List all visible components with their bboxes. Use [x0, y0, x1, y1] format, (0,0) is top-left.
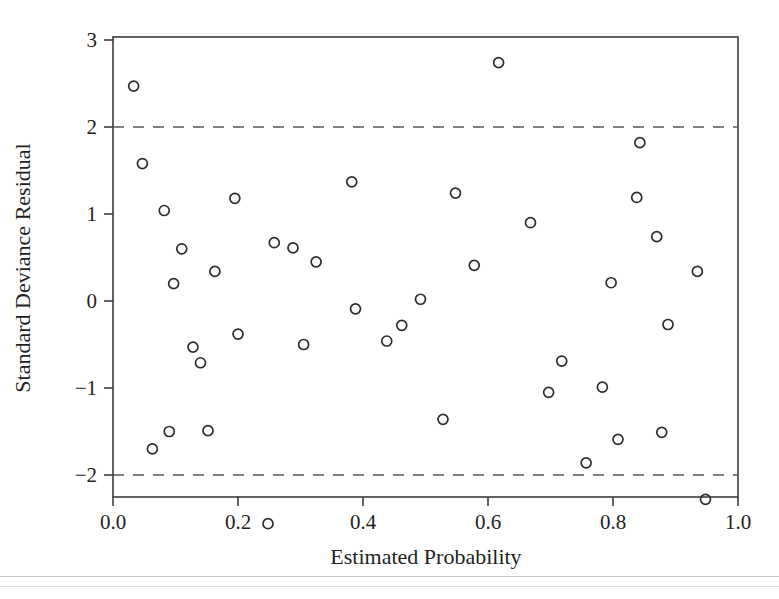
x-tick-label-0: 0.0 — [100, 510, 126, 534]
y-tick-label-3: 1 — [87, 202, 98, 226]
y-axis-title: Standard Deviance Residual — [10, 143, 35, 392]
x-tick-label-4: 0.8 — [600, 510, 626, 534]
y-tick-label-0: −2 — [75, 463, 97, 487]
y-tick-label-1: −1 — [75, 376, 97, 400]
x-axis-title: Estimated Probability — [330, 544, 521, 569]
scan-artifact-line-lower — [0, 586, 779, 587]
y-tick-label-4: 2 — [87, 115, 98, 139]
x-tick-label-5: 1.0 — [725, 510, 751, 534]
residual-scatter-figure: 0.00.20.40.60.81.0 −2−10123 Estimated Pr… — [0, 0, 779, 599]
x-tick-label-3: 0.6 — [475, 510, 501, 534]
x-tick-label-1: 0.2 — [225, 510, 251, 534]
scatter-plot-canvas: 0.00.20.40.60.81.0 −2−10123 Estimated Pr… — [0, 0, 779, 599]
y-tick-label-5: 3 — [87, 28, 98, 52]
scan-artifact-line-upper — [0, 576, 779, 577]
x-tick-label-2: 0.4 — [350, 510, 377, 534]
y-tick-label-2: 0 — [87, 289, 98, 313]
